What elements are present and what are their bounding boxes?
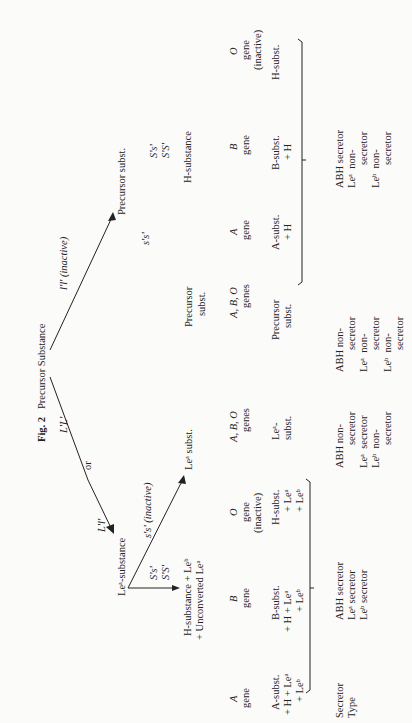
product-a-left-1: A-subst. [270, 675, 282, 710]
gene-a-right: A [228, 229, 240, 235]
secretor-mid-right-1: ABH non- [334, 328, 346, 372]
node-lea-subst: Leᵃ subst. [183, 429, 195, 470]
genes-mid-right-label: genes [240, 284, 252, 308]
gene-o-left-label-1: gene [240, 502, 252, 522]
secretor-left-2: Leᵃ secretor [346, 570, 358, 620]
gene-b-left-label: gene [240, 588, 252, 608]
product-b-left-3: + Leᵇ [294, 589, 306, 612]
node-h-substance-left-2: + Unconverted Leᵃ [194, 561, 206, 640]
secretor-right-4: Leᵇ non- [370, 149, 382, 188]
gene-a-left-label: gene [240, 688, 252, 708]
product-mid-left-1: Leᵃ- [270, 423, 282, 440]
node-precursor-mid-1: Precursor [183, 287, 195, 327]
node-h-substance-right: H-substance [182, 131, 194, 183]
secretor-type-heading-2: Type [346, 697, 358, 718]
secretor-inactive-right: s's' [140, 232, 152, 245]
product-mid-right-1: Precursor [270, 300, 282, 340]
genotype-left: L'L' [58, 417, 70, 433]
product-b-right-1: B-subst. [270, 135, 282, 170]
figure-title: Fig. 2 Precursor Substance [36, 324, 48, 442]
secretor-mid-left-2: secretor [346, 412, 358, 445]
gene-o-right-label-2: (inactive) [252, 30, 264, 70]
product-a-right-1: A-subst. [270, 215, 282, 250]
node-lea-substance: Leᵃ-substance [116, 538, 128, 596]
secretor-type-heading-1: Secretor [334, 683, 346, 718]
secretor-mid-left-1: ABH non- [334, 424, 346, 468]
product-a-left-2: + H + Leᵃ [282, 674, 294, 715]
product-o-left-1: H-subst. [270, 490, 282, 525]
genes-mid-left: A, B, O [228, 411, 240, 442]
gene-o-right: O [228, 47, 240, 55]
genes-mid-right: A, B, O [228, 287, 240, 318]
product-a-right-2: + H [282, 224, 294, 240]
node-precursor-mid-2: subst. [196, 292, 208, 316]
node-h-substance-left-1: H-substance + Leᵇ [182, 559, 194, 636]
product-o-left-3: + Leᵇ [294, 489, 306, 512]
secretor-mid-left-4: Leᵇ non- [370, 429, 382, 468]
gene-b-left: B [228, 596, 240, 602]
gene-a-right-label: gene [240, 220, 252, 240]
product-o-right-1: H-subst. [270, 45, 282, 80]
product-mid-left-2: subst. [282, 416, 294, 440]
secretor-active-right-2: S'S' [160, 143, 172, 158]
genotype-left-left: L'l' [96, 519, 108, 532]
secretor-active-left-1: S's' [148, 566, 160, 580]
or-label: or [82, 461, 94, 470]
secretor-mid-right-3: Leᵃ non- [358, 334, 370, 372]
product-o-left-2: + Leᵃ [282, 490, 294, 513]
product-b-right-2: + H [282, 144, 294, 160]
gene-o-left: O [228, 508, 240, 516]
product-a-left-3: + Leᵇ [294, 679, 306, 702]
secretor-mid-left-3: Leᵃ secretor [358, 416, 370, 468]
secretor-right-3: secretor [358, 132, 370, 165]
figure-label: Fig. 2 [36, 417, 47, 442]
secretor-active-right-1: S's' [148, 144, 160, 158]
genes-mid-left-label: genes [240, 408, 252, 432]
secretor-right-2: Leᵃ non- [346, 150, 358, 188]
secretor-mid-right-6: secretor [394, 317, 406, 350]
gene-o-left-label-2: (inactive) [252, 493, 264, 533]
secretor-inactive-left: s's' (inactive) [142, 482, 154, 538]
gene-o-right-label-1: gene [240, 40, 252, 60]
secretor-right-5: secretor [382, 132, 394, 165]
secretor-mid-left-5: secretor [382, 412, 394, 445]
genotype-right: l'l' (inactive) [58, 237, 70, 290]
secretor-left-1: ABH secretor [334, 562, 346, 620]
secretor-mid-right-5: Leᵇ non- [382, 333, 394, 372]
product-mid-right-2: subst. [282, 304, 294, 328]
product-b-left-1: B-subst. [270, 585, 282, 620]
gene-b-right: B [228, 144, 240, 150]
node-precursor-subst-top: Precursor subst. [116, 148, 128, 215]
product-b-left-2: + H + Leᵃ [282, 591, 294, 632]
secretor-right-1: ABH secretor [334, 130, 346, 188]
figure-title-text: Precursor Substance [36, 324, 47, 409]
secretor-left-3: Leᵇ secretor [358, 570, 370, 620]
secretor-mid-right-4: secretor [370, 317, 382, 350]
gene-b-right-label: gene [240, 135, 252, 155]
secretor-active-left-2: S'S' [160, 565, 172, 580]
gene-a-left: A [228, 696, 240, 702]
secretor-mid-right-2: secretor [346, 317, 358, 350]
